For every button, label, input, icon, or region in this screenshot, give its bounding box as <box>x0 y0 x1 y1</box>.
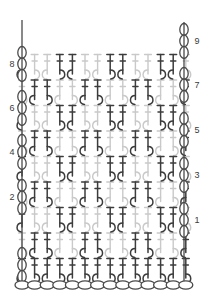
post-stitch <box>93 157 101 182</box>
post-stitch <box>42 208 50 233</box>
post-stitch <box>55 131 63 156</box>
stitch-hook <box>93 121 98 130</box>
post-stitch <box>156 80 164 105</box>
post-stitch <box>56 208 64 233</box>
stitch-hook <box>55 198 60 207</box>
post-stitch <box>168 157 176 182</box>
row-number-right: 5 <box>194 125 199 135</box>
stitch-hook <box>105 198 110 207</box>
stitch-hook <box>156 249 161 258</box>
row-number-right: 9 <box>194 36 199 46</box>
post-stitch <box>67 157 75 182</box>
post-stitch <box>119 80 127 105</box>
post-stitch <box>157 55 165 80</box>
post-stitch <box>42 106 50 131</box>
stitch-hook <box>143 223 148 232</box>
post-stitch <box>67 259 75 284</box>
stitch-hook <box>42 121 47 130</box>
foundation-chain-oval <box>154 281 168 289</box>
foundation-chain-oval <box>15 281 29 289</box>
foundation-chain-oval <box>166 281 180 289</box>
post-stitch <box>56 157 64 182</box>
post-stitch <box>145 233 153 258</box>
row-number-left: 4 <box>9 147 14 157</box>
post-stitch <box>80 80 88 105</box>
post-stitch <box>30 182 38 207</box>
stitch-hook <box>85 70 90 79</box>
post-stitch <box>44 131 52 156</box>
post-stitch <box>170 182 178 207</box>
stitch-hook <box>173 198 178 207</box>
post-stitch <box>157 259 165 284</box>
post-stitch <box>107 259 115 284</box>
post-stitch <box>107 208 115 233</box>
post-stitch <box>107 55 115 80</box>
post-stitch <box>132 259 140 284</box>
post-stitch <box>94 233 102 258</box>
post-stitch <box>145 80 153 105</box>
post-stitch <box>44 233 52 258</box>
post-stitch <box>55 233 63 258</box>
stitch-hook <box>42 223 47 232</box>
post-stitch <box>69 80 77 105</box>
foundation-chain-oval <box>28 281 42 289</box>
post-stitch <box>94 131 102 156</box>
stitch-hook <box>173 249 178 258</box>
post-stitch <box>69 233 77 258</box>
post-stitch <box>55 182 63 207</box>
row-number-left: 6 <box>9 103 14 113</box>
post-stitch <box>69 131 77 156</box>
post-stitch <box>93 106 101 131</box>
post-stitch <box>119 233 127 258</box>
row-number-left: 8 <box>9 59 14 69</box>
stitch-hook <box>72 198 77 207</box>
stitch-hook <box>105 249 110 258</box>
post-stitch <box>130 131 138 156</box>
post-stitch <box>44 80 52 105</box>
foundation-chain-oval <box>103 281 117 289</box>
post-stitch <box>143 157 151 182</box>
post-stitch <box>93 259 101 284</box>
foundation-chain-oval <box>91 281 105 289</box>
post-stitch <box>67 55 75 80</box>
post-stitch <box>118 55 126 80</box>
post-stitch <box>67 208 75 233</box>
stitch-hook <box>55 147 60 156</box>
post-stitch <box>156 233 164 258</box>
stitch-hook <box>143 121 148 130</box>
post-stitch <box>67 106 75 131</box>
post-stitch <box>93 55 101 80</box>
post-stitch <box>44 182 52 207</box>
stitch-hook <box>55 96 60 105</box>
post-stitch <box>118 157 126 182</box>
post-stitch <box>130 80 138 105</box>
post-stitch <box>56 55 64 80</box>
post-stitch <box>145 131 153 156</box>
row-number-right: 1 <box>194 215 199 225</box>
post-stitch <box>132 157 140 182</box>
stitch-hook <box>135 121 140 130</box>
stitch-hook <box>93 70 98 79</box>
post-stitch <box>156 131 164 156</box>
post-stitch <box>118 208 126 233</box>
stitch-hook <box>123 147 128 156</box>
post-stitch <box>132 106 140 131</box>
post-stitch <box>82 157 90 182</box>
foundation-chain-oval <box>128 281 142 289</box>
foundation-chain-oval <box>53 281 67 289</box>
stitch-hook <box>105 96 110 105</box>
post-stitch <box>105 80 113 105</box>
post-stitch <box>145 182 153 207</box>
stitch-hook <box>173 147 178 156</box>
post-stitch <box>118 106 126 131</box>
stitch-diagram-svg: 975318642 <box>0 0 209 302</box>
stitch-hook <box>85 121 90 130</box>
post-stitch <box>143 106 151 131</box>
stitch-hook <box>156 198 161 207</box>
post-stitch <box>55 80 63 105</box>
post-stitch <box>130 233 138 258</box>
post-stitch <box>94 80 102 105</box>
post-stitch <box>130 182 138 207</box>
post-stitch <box>56 259 64 284</box>
stitch-hook <box>85 172 90 181</box>
